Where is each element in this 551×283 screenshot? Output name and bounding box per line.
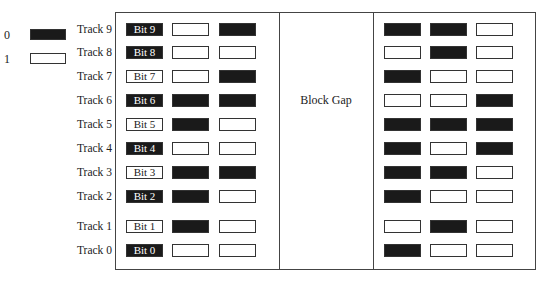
bit-cell-labeled: Bit 9 [126, 23, 163, 36]
bit-cell [384, 166, 421, 179]
bit-cell [172, 220, 209, 233]
bit-cell [430, 23, 467, 36]
track-label: Track 0 [0, 244, 112, 257]
bit-cell [476, 190, 513, 203]
bit-cell [172, 118, 209, 131]
bit-cell [476, 118, 513, 131]
bit-cell [430, 244, 467, 257]
gap-divider-right [373, 12, 374, 270]
block-gap-label: Block Gap [279, 93, 373, 108]
bit-cell [384, 94, 421, 107]
bit-cell [219, 70, 256, 83]
gap-divider-left [279, 12, 280, 270]
bit-cell [476, 23, 513, 36]
bit-cell [219, 220, 256, 233]
bit-cell [219, 190, 256, 203]
bit-cell [219, 244, 256, 257]
bit-cell [430, 46, 467, 59]
bit-cell-labeled: Bit 4 [126, 142, 163, 155]
bit-cell-labeled: Bit 3 [126, 166, 163, 179]
bit-cell [430, 70, 467, 83]
bit-cell [430, 166, 467, 179]
bit-cell [384, 118, 421, 131]
bit-cell [476, 70, 513, 83]
track-label: Track 9 [0, 23, 112, 36]
bit-cell [172, 190, 209, 203]
bit-cell-labeled: Bit 6 [126, 94, 163, 107]
track-label: Track 8 [0, 46, 112, 59]
bit-cell [430, 118, 467, 131]
track-label: Track 5 [0, 118, 112, 131]
track-label: Track 1 [0, 220, 112, 233]
bit-cell [172, 244, 209, 257]
bit-cell [430, 220, 467, 233]
bit-cell [172, 166, 209, 179]
bit-cell [172, 142, 209, 155]
bit-cell [172, 94, 209, 107]
bit-cell [430, 94, 467, 107]
bit-cell [476, 142, 513, 155]
bit-cell [476, 244, 513, 257]
bit-cell [172, 46, 209, 59]
track-label: Track 7 [0, 70, 112, 83]
bit-cell [384, 70, 421, 83]
bit-cell [430, 142, 467, 155]
bit-cell-labeled: Bit 2 [126, 190, 163, 203]
bit-cell [219, 166, 256, 179]
bit-cell [476, 94, 513, 107]
track-label: Track 6 [0, 94, 112, 107]
bit-cell [219, 23, 256, 36]
bit-cell [384, 244, 421, 257]
bit-cell [219, 46, 256, 59]
bit-cell [430, 190, 467, 203]
bit-cell [476, 46, 513, 59]
bit-cell-labeled: Bit 7 [126, 70, 163, 83]
bit-cell [219, 94, 256, 107]
bit-cell-labeled: Bit 8 [126, 46, 163, 59]
bit-cell [384, 220, 421, 233]
bit-cell [476, 220, 513, 233]
bit-cell [384, 142, 421, 155]
bit-cell [384, 190, 421, 203]
bit-cell [219, 118, 256, 131]
bit-cell-labeled: Bit 5 [126, 118, 163, 131]
bit-cell [384, 46, 421, 59]
track-label: Track 2 [0, 190, 112, 203]
bit-cell [172, 23, 209, 36]
bit-cell [172, 70, 209, 83]
bit-cell [384, 23, 421, 36]
bit-cell-labeled: Bit 1 [126, 220, 163, 233]
track-label: Track 3 [0, 166, 112, 179]
track-label: Track 4 [0, 142, 112, 155]
bit-cell [476, 166, 513, 179]
bit-cell-labeled: Bit 0 [126, 244, 163, 257]
bit-cell [219, 142, 256, 155]
